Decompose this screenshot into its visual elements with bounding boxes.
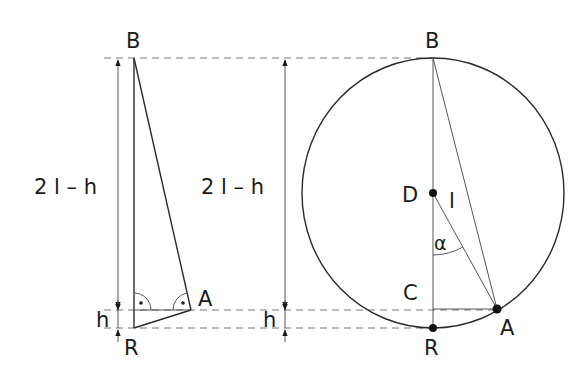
label-R-left: R: [124, 336, 139, 360]
hypotenuse-BA: [134, 58, 191, 310]
label-D: D: [402, 183, 418, 207]
label-2l-h-left: 2 l – h: [34, 175, 97, 199]
label-R-right: R: [424, 336, 439, 360]
right-angle-dot-2: [181, 301, 185, 305]
label-B-right: B: [425, 29, 439, 53]
chord-BA: [433, 58, 497, 309]
label-2l-h-right: 2 l – h: [201, 175, 264, 199]
right-angle-arc-1: [134, 293, 151, 310]
left-panel: B R A 2 l – h h: [34, 29, 213, 360]
label-h-left: h: [96, 308, 109, 332]
label-C: C: [403, 281, 418, 305]
label-A-right: A: [500, 316, 515, 340]
point-D: [429, 189, 437, 197]
label-B-left: B: [126, 29, 140, 53]
right-angle-arc-2: [173, 293, 187, 310]
point-A: [493, 305, 502, 314]
label-h-right: h: [263, 308, 276, 332]
label-l-radius: l: [449, 189, 455, 213]
label-A-left: A: [198, 287, 213, 311]
right-angle-dot-1: [139, 301, 143, 305]
dashed-guides: [104, 58, 497, 328]
geometry-diagram: B R A 2 l – h h B R D l α C A 2 l – h h: [0, 0, 583, 385]
label-alpha: α: [434, 232, 447, 254]
point-R: [429, 324, 437, 332]
side-AR: [134, 310, 191, 328]
